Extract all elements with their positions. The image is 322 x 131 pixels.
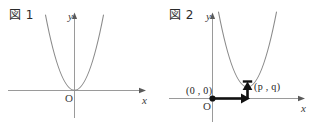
figure-2-x-axis-label: x <box>301 103 306 114</box>
figure-2: 図 2 y x O (0 , 0) (p , q) <box>161 0 322 131</box>
figure-pair-container: 図 1 y x O 図 2 <box>0 0 322 131</box>
figure-1-x-axis-arrowhead <box>139 88 146 93</box>
figure-2-x-axis-arrowhead <box>298 96 305 101</box>
figure-2-parabola-curve <box>219 12 277 87</box>
figure-2-plot <box>161 0 322 131</box>
figure-1-x-axis-label: x <box>142 95 147 106</box>
figure-1-plot <box>0 0 161 131</box>
figure-2-origin-coordinate-label: (0 , 0) <box>186 86 212 96</box>
figure-1-y-axis-label: y <box>68 11 73 22</box>
figure-2-origin-label: O <box>203 101 211 112</box>
figure-2-y-axis-label: y <box>206 11 211 22</box>
figure-2-vertex-coordinate-label: (p , q) <box>254 82 280 92</box>
figure-1: 図 1 y x O <box>0 0 161 131</box>
figure-1-origin-label: O <box>65 93 73 104</box>
